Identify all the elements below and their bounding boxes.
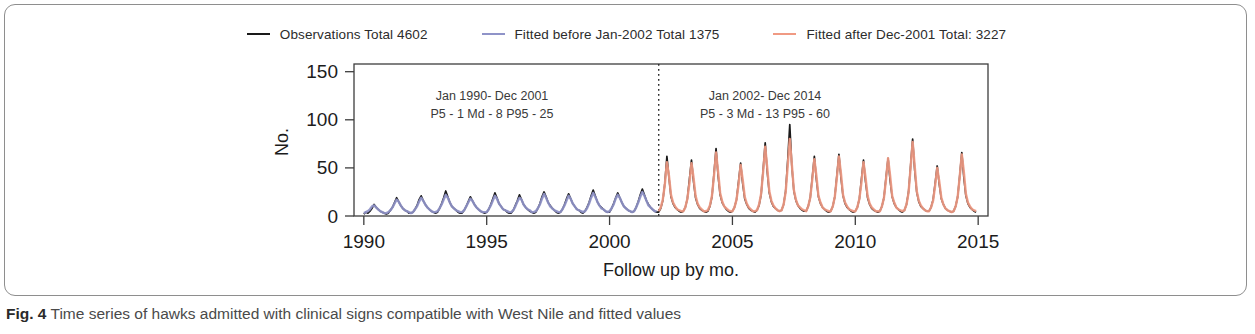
time-series-plot: 050100150No.199019952000200520102015Foll…	[5, 5, 1248, 297]
annotation-period-2-line2: P5 - 3 Md - 13 P95 - 60	[700, 107, 830, 121]
figure-number: Fig. 4	[6, 305, 46, 322]
annotation-period-1-line1: Jan 1990- Dec 2001	[436, 89, 549, 103]
figure-frame: Observations Total 4602 Fitted before Ja…	[4, 4, 1247, 296]
x-tick-label-1995: 1995	[466, 231, 508, 252]
y-tick-label-50: 50	[317, 157, 338, 178]
x-tick-label-2015: 2015	[957, 231, 999, 252]
figure-caption-text: Time series of hawks admitted with clini…	[51, 305, 682, 322]
plot-canvas: 050100150No.199019952000200520102015Foll…	[5, 5, 1248, 297]
x-tick-label-2005: 2005	[711, 231, 753, 252]
y-tick-label-100: 100	[306, 109, 338, 130]
series-fitted-before	[364, 192, 657, 213]
x-axis-title: Follow up by mo.	[603, 260, 739, 280]
x-tick-label-2010: 2010	[834, 231, 876, 252]
annotation-period-2-line1: Jan 2002- Dec 2014	[709, 89, 822, 103]
x-tick-label-2000: 2000	[588, 231, 630, 252]
series-fitted-after	[659, 139, 976, 212]
y-axis-title: No.	[272, 128, 292, 156]
y-tick-label-0: 0	[327, 206, 338, 227]
y-tick-label-150: 150	[306, 61, 338, 82]
annotation-period-1-line2: P5 - 1 Md - 8 P95 - 25	[431, 107, 554, 121]
x-tick-label-1990: 1990	[343, 231, 385, 252]
figure-caption: Fig. 4 Time series of hawks admitted wit…	[6, 305, 1206, 323]
